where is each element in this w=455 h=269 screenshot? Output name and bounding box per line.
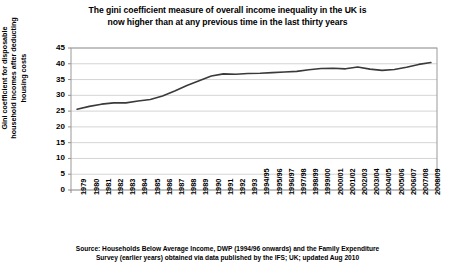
x-axis-tick-label: 1997/98 [300,168,308,195]
x-axis-tick-label: 1991 [227,179,235,195]
x-axis-tick-label: 1987 [178,179,186,195]
y-axis-tick-label: 35 [47,76,65,84]
source-note-line-2: Survey (earlier years) obtained via data… [20,253,435,262]
y-axis-tick-label: 25 [47,107,65,115]
x-axis-tick-label: 1983 [129,179,137,195]
x-axis-tick-label: 1985 [154,179,162,195]
x-axis-tick-label: 1979 [80,179,88,195]
gini-coefficient-line-chart: The gini coefficient measure of overall … [0,0,455,269]
y-axis-tick-label: 5 [47,170,65,178]
plot-area [0,0,455,269]
x-axis-tick-label: 1995/96 [276,168,284,195]
x-axis-tick-label: 1980 [93,179,101,195]
y-axis-tick-label: 0 [47,186,65,194]
x-axis-tick-label: 2001/02 [349,168,357,195]
x-axis-tick-label: 1981 [105,179,113,195]
source-note: Source: Households Below Average Income,… [20,244,435,262]
x-axis-tick-label: 2004/05 [385,168,393,195]
x-axis-tick-label: 1990 [215,179,223,195]
data-series-line [77,63,431,110]
y-axis-tick-label: 30 [47,91,65,99]
x-axis-tick-label: 1989 [202,179,210,195]
y-axis-tick-label: 45 [47,44,65,52]
source-note-line-1: Source: Households Below Average Income,… [20,244,435,253]
x-axis-tick-label: 2005/06 [398,168,406,195]
gridlines [71,48,437,190]
x-axis-tick-label: 1999/00 [324,168,332,195]
x-axis-tick-label: 1996/97 [288,168,296,195]
x-axis-tick-label: 1998/99 [312,168,320,195]
x-axis-tick-label: 1986 [166,179,174,195]
y-axis-tick-label: 40 [47,60,65,68]
x-axis-tick-label: 1982 [117,179,125,195]
y-axis-tick-label: 20 [47,123,65,131]
x-axis-tick-label: 2003/04 [373,168,381,195]
x-axis-tick-label: 1993 [251,179,259,195]
x-axis-tick-label: 2007/08 [422,168,430,195]
x-axis-tick-label: 1994/95 [263,168,271,195]
x-axis-tick-label: 2002/03 [361,168,369,195]
x-axis-tick-label: 1992 [239,179,247,195]
x-axis-tick-label: 1988 [190,179,198,195]
x-axis-tick-label: 2000/01 [337,168,345,195]
y-axis-tick-label: 10 [47,154,65,162]
x-axis-tick-label: 2008/09 [434,168,442,195]
y-axis-tick-label: 15 [47,139,65,147]
x-axis-tick-label: 2006/07 [410,168,418,195]
x-axis-tick-label: 1984 [141,179,149,195]
plot-border [71,48,437,190]
